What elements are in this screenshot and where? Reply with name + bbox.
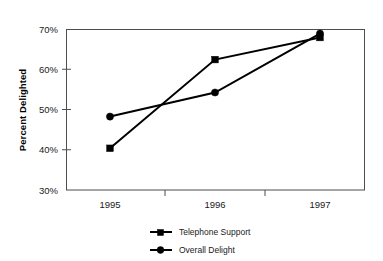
x-tick-label-1995: 1995 — [99, 199, 120, 210]
series-layer — [106, 30, 323, 152]
series-line — [110, 34, 320, 117]
plot-area-border — [67, 30, 365, 191]
data-point-circle — [316, 30, 323, 37]
legend-entry-overall-delight: Overall Delight — [150, 245, 235, 255]
y-axis-tick-labels: 70% 60% 50% 40% 30% — [39, 24, 59, 196]
y-tick-label-30: 30% — [39, 185, 59, 196]
data-point-circle — [211, 89, 218, 96]
legend-entry-telephone-support: Telephone Support — [150, 227, 251, 237]
data-point-square — [107, 145, 114, 152]
x-axis-tick-labels: 1995 1996 1997 — [99, 199, 330, 210]
y-tick-label-60: 60% — [39, 64, 59, 75]
chart-legend: Telephone Support Overall Delight — [150, 227, 251, 255]
y-tick-label-70: 70% — [39, 24, 59, 35]
square-marker-icon — [158, 230, 164, 236]
x-tick-label-1997: 1997 — [309, 199, 330, 210]
circle-marker-icon — [157, 247, 164, 254]
data-point-square — [212, 56, 219, 63]
y-tick-label-40: 40% — [39, 144, 59, 155]
legend-label-overall-delight: Overall Delight — [179, 245, 235, 255]
y-axis-title: Percent Delighted — [17, 69, 28, 152]
legend-label-telephone-support: Telephone Support — [179, 227, 251, 237]
y-tick-label-50: 50% — [39, 104, 59, 115]
data-point-circle — [106, 113, 113, 120]
line-chart: 70% 60% 50% 40% 30% Percent Delighted 19… — [0, 0, 383, 261]
chart-canvas: 70% 60% 50% 40% 30% Percent Delighted 19… — [0, 0, 383, 261]
x-axis-ticks — [165, 190, 265, 196]
x-tick-label-1996: 1996 — [204, 199, 225, 210]
